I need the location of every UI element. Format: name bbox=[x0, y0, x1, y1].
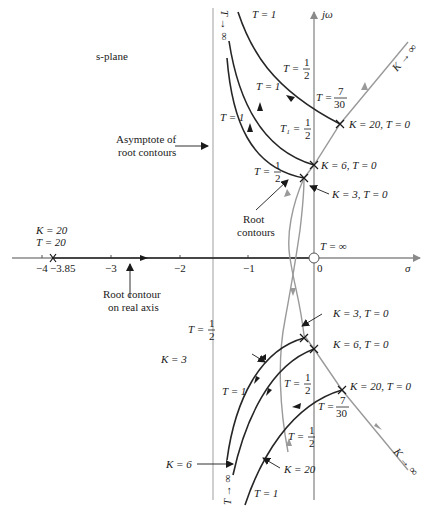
svg-text:2: 2 bbox=[209, 330, 215, 342]
tick-neg385: −3.85 bbox=[50, 262, 76, 274]
real-pole-t-label: T = 20 bbox=[36, 236, 66, 248]
svg-text:1: 1 bbox=[305, 371, 311, 383]
k20-lower-label: K = 20 bbox=[283, 463, 316, 475]
t1-half-label: T₁ = 1 2 bbox=[280, 116, 311, 141]
svg-text:T =: T = bbox=[284, 377, 300, 389]
svg-text:30: 30 bbox=[334, 98, 346, 110]
tick-0: 0 bbox=[317, 262, 323, 274]
svg-text:7: 7 bbox=[338, 85, 344, 97]
svg-text:1: 1 bbox=[305, 116, 311, 128]
k3-upper-pointer bbox=[310, 186, 329, 194]
svg-text:T =: T = bbox=[254, 165, 270, 177]
locus-arrow-icon bbox=[374, 423, 382, 430]
t1-label: T = 1 bbox=[222, 385, 246, 397]
root-contours-label-2: contours bbox=[237, 226, 275, 238]
svg-text:1: 1 bbox=[309, 424, 315, 436]
svg-text:2: 2 bbox=[305, 384, 311, 396]
t1-label: T = 1 bbox=[252, 8, 276, 20]
t-half-label: T = 1 2 bbox=[288, 424, 315, 449]
k20-label-pointer bbox=[263, 458, 280, 468]
svg-text:2: 2 bbox=[309, 437, 315, 449]
s-plane-label: s-plane bbox=[96, 50, 128, 62]
k-inf-lower-label: K → ∞ bbox=[391, 445, 421, 478]
tick-neg3: −3 bbox=[105, 262, 117, 274]
svg-text:T =: T = bbox=[283, 62, 299, 74]
svg-text:T₁ =: T₁ = bbox=[280, 122, 300, 134]
real-axis-label: σ bbox=[405, 262, 411, 274]
origin-label: T = ∞ bbox=[320, 240, 347, 252]
t1-label: T = 1 bbox=[256, 80, 280, 92]
t1-label: T = 1 bbox=[220, 111, 244, 123]
real-contour-label-2: on real axis bbox=[108, 301, 159, 313]
svg-text:2: 2 bbox=[305, 129, 311, 141]
root-contour-diagram: s-plane jω σ T = ∞ −4 −3.85 −3 −2 −1 0 A… bbox=[0, 0, 432, 514]
svg-text:2: 2 bbox=[275, 172, 281, 184]
k6-lower-label: K = 6 bbox=[165, 458, 192, 470]
k20-t0-lower-label: K = 20, T = 0 bbox=[349, 380, 412, 392]
t-half-label: T = 1 2 bbox=[188, 317, 215, 342]
imag-axis-label: jω bbox=[320, 8, 333, 20]
real-pole-k-label: K = 20 bbox=[35, 224, 68, 236]
t-inf-lower-label: T → ∞ bbox=[221, 475, 233, 505]
svg-text:30: 30 bbox=[336, 407, 348, 419]
root-locus-T0-lower bbox=[289, 178, 408, 470]
asymptote-label-2: root contours bbox=[118, 146, 176, 158]
real-contour-arrow-icon bbox=[140, 255, 148, 261]
root-contours-pointer bbox=[256, 180, 288, 210]
k6-t0-lower-label: K = 6, T = 0 bbox=[332, 338, 389, 350]
t-inf-upper-label: T → ∞ bbox=[219, 10, 231, 40]
t-7-30-label: T = 7 30 bbox=[316, 85, 347, 110]
locus-arrow-icon bbox=[361, 82, 368, 90]
k6-t0-upper-label: K = 6, T = 0 bbox=[320, 159, 377, 171]
svg-text:T =: T = bbox=[188, 323, 204, 335]
t-half-label: T = 1 2 bbox=[283, 56, 310, 81]
svg-text:1: 1 bbox=[209, 317, 215, 329]
real-contour-label-1: Root contour bbox=[103, 288, 161, 300]
tick-neg1: −1 bbox=[243, 262, 255, 274]
svg-text:2: 2 bbox=[304, 69, 310, 81]
locus-arrow-icon bbox=[290, 288, 296, 296]
root-contours-label-1: Root bbox=[243, 213, 264, 225]
k3-lower-pointer bbox=[302, 314, 322, 326]
t1-label: T = 1 bbox=[254, 487, 278, 499]
svg-text:1: 1 bbox=[275, 159, 281, 171]
k20-t0-upper-label: K = 20, T = 0 bbox=[348, 118, 411, 130]
svg-text:1: 1 bbox=[304, 56, 310, 68]
svg-text:7: 7 bbox=[340, 394, 346, 406]
svg-text:T =: T = bbox=[288, 430, 304, 442]
k3-lower-label: K = 3 bbox=[160, 353, 187, 365]
svg-text:T =: T = bbox=[316, 91, 332, 103]
tick-neg2: −2 bbox=[174, 262, 186, 274]
tick-neg4: −4 bbox=[36, 262, 48, 274]
root-contour-k6-upper bbox=[229, 41, 314, 165]
t-half-label: T = 1 2 bbox=[284, 371, 311, 396]
svg-text:T =: T = bbox=[318, 400, 334, 412]
locus-arrow-icon bbox=[284, 189, 291, 197]
k3-t0-lower-label: K = 3, T = 0 bbox=[332, 307, 389, 319]
asymptote-label-1: Asymptote of bbox=[116, 133, 177, 145]
k3-t0-upper-label: K = 3, T = 0 bbox=[331, 188, 388, 200]
